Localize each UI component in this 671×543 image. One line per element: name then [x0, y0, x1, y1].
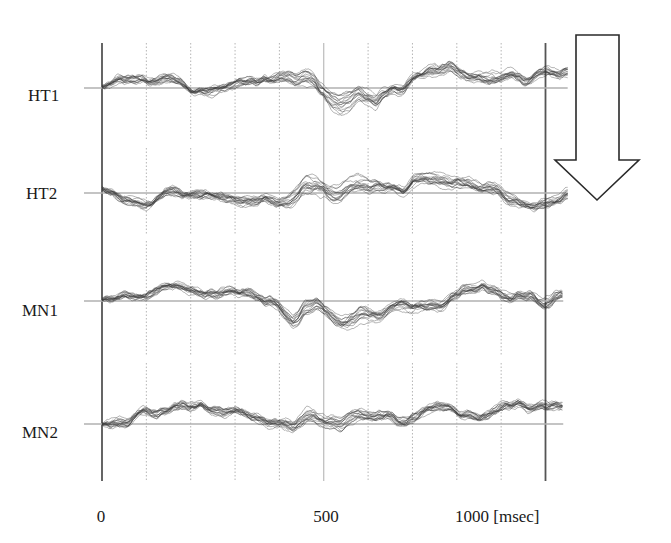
- row-label-mn2: MN2: [22, 423, 58, 442]
- baseline-layer: [84, 88, 568, 424]
- traces-ht2: [102, 172, 568, 212]
- trace-ht2-11: [102, 179, 568, 211]
- x-tick-0: 0: [97, 507, 106, 526]
- trace-ht1-6: [102, 63, 568, 107]
- trace-mn1-10: [102, 286, 562, 326]
- trace-ht1-7: [102, 69, 568, 104]
- trace-layer: [102, 61, 568, 433]
- trace-mn1-4: [102, 284, 562, 327]
- x-tick-1000: 1000 [msec]: [455, 507, 540, 526]
- traces-mn1: [102, 280, 562, 330]
- row-label-ht2: HT2: [26, 184, 57, 203]
- trace-mn1-2: [102, 280, 562, 318]
- x-tick-labels: 0 500 1000 [msec]: [97, 507, 540, 526]
- traces-mn2: [102, 399, 562, 433]
- down-arrow-icon: [555, 35, 639, 200]
- row-labels: HT1 HT2 MN1 MN2: [22, 86, 59, 442]
- row-label-mn1: MN1: [22, 301, 58, 320]
- trace-ht1-13: [102, 67, 568, 103]
- row-label-ht1: HT1: [28, 86, 59, 105]
- x-tick-500: 500: [313, 507, 339, 526]
- trace-ht1-0: [102, 65, 568, 114]
- erp-figure: HT1 HT2 MN1 MN2 0 500 1000 [msec]: [0, 0, 671, 543]
- trace-ht2-0: [102, 182, 568, 210]
